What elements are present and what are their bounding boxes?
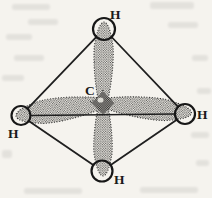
tetrahedron-edge-right-bottom <box>111 120 177 165</box>
tetrahedron-edge-left-bottom <box>29 121 94 165</box>
center-highlight <box>98 97 104 102</box>
carbon-label: C <box>85 83 95 98</box>
scanned-book-page: C H H H H <box>0 0 212 198</box>
hydrogen-label-top: H <box>110 7 121 22</box>
methane-sp3-orbital-diagram: C H H H H <box>0 0 212 198</box>
hydrogen-label-bottom: H <box>114 172 125 187</box>
tetrahedron-edge-top-right <box>112 37 179 107</box>
hydrogen-label-right: H <box>197 107 208 122</box>
hydrogen-label-left: H <box>8 126 19 141</box>
